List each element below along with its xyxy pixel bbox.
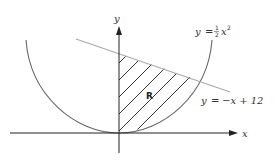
x-axis-label: x	[242, 128, 248, 139]
svg-text:2: 2	[215, 31, 219, 38]
svg-text:=: =	[211, 95, 219, 106]
y-axis-label: y	[113, 13, 120, 24]
y-axis	[116, 26, 122, 153]
line-label: y = −x + 12	[200, 95, 263, 106]
svg-text:2: 2	[227, 24, 231, 31]
svg-text:y: y	[194, 26, 201, 37]
y-axis-arrow-icon	[116, 26, 122, 35]
svg-text:−x + 12: −x + 12	[222, 95, 263, 106]
region-diagram: x y y = 1 2 x 2 y = −x + 12 R	[0, 0, 278, 163]
svg-text:=: =	[205, 26, 213, 37]
svg-text:1: 1	[215, 24, 219, 31]
parabola-label: y = 1 2 x 2	[194, 24, 231, 38]
x-axis-arrow-icon	[229, 130, 238, 136]
svg-text:y: y	[200, 95, 207, 106]
x-axis	[10, 130, 238, 136]
region-r-label: R	[146, 91, 153, 101]
